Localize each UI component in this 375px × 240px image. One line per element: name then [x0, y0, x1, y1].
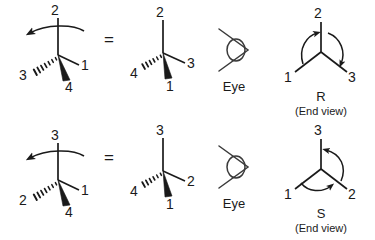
endview-substituent-label: 3: [348, 70, 356, 84]
wedge-dash-structure-s-source: [30, 143, 84, 206]
substituent-label: 1: [81, 58, 89, 72]
substituent-label: 3: [156, 123, 164, 137]
diagram-vector-layer: [0, 0, 375, 240]
equals-sign: =: [104, 31, 114, 48]
equals-sign: =: [104, 149, 114, 166]
substituent-label: 3: [19, 68, 27, 82]
wedge-dash-structure-r-source: [30, 18, 84, 81]
rotation-arc-bottom: [301, 183, 331, 191]
bond-down-wedge: [58, 55, 70, 81]
endview-substituent-label: 2: [314, 6, 322, 20]
endview-substituent-label: 1: [284, 187, 292, 201]
endview-bond-lowerleft: [295, 52, 321, 72]
bond-down-wedge: [58, 180, 70, 206]
substituent-label: 1: [81, 183, 89, 197]
substituent-label: 4: [130, 184, 138, 198]
substituent-label: 4: [130, 66, 138, 80]
curved-rotation-arrow: [30, 151, 84, 158]
eye-label: Eye: [223, 197, 245, 210]
configuration-label: S: [317, 207, 326, 220]
figure-canvas: 2 3 1 4 = 2 4 3 1 Eye 2 1 3 R (End view)…: [0, 0, 375, 240]
bond-lowerleft-dashed: [34, 183, 57, 200]
substituent-label: 3: [187, 56, 195, 70]
substituent-label: 2: [19, 193, 27, 207]
wedge-dash-structure-s-rotated: [142, 138, 185, 197]
substituent-label: 2: [51, 3, 59, 17]
substituent-label: 4: [65, 80, 73, 94]
substituent-label: 4: [65, 205, 73, 219]
rotation-arc-right: [326, 150, 343, 181]
endview-substituent-label: 2: [348, 187, 356, 201]
substituent-label: 1: [166, 197, 174, 211]
configuration-sublabel: (End view): [295, 223, 347, 234]
substituent-label: 3: [51, 128, 59, 142]
bond-left-dashed: [142, 55, 161, 69]
end-view-r: [295, 22, 347, 72]
rotation-arc-left: [302, 33, 317, 64]
bond-lowerleft-dashed: [34, 58, 57, 75]
endview-bond-lowerleft: [295, 169, 321, 189]
bond-left-dashed: [142, 173, 161, 187]
substituent-label: 2: [156, 5, 164, 19]
configuration-sublabel: (End view): [295, 106, 347, 117]
curved-rotation-arrow: [30, 26, 84, 33]
end-view-s: [295, 139, 347, 191]
substituent-label: 1: [166, 79, 174, 93]
eye-icon-top: [219, 29, 248, 71]
eye-icon-bottom: [219, 146, 248, 188]
endview-substituent-label: 1: [284, 70, 292, 84]
configuration-label: R: [316, 90, 325, 103]
endview-substituent-label: 3: [314, 123, 322, 137]
eye-label: Eye: [223, 80, 245, 93]
substituent-label: 2: [187, 174, 195, 188]
wedge-dash-structure-r-rotated: [142, 20, 185, 79]
